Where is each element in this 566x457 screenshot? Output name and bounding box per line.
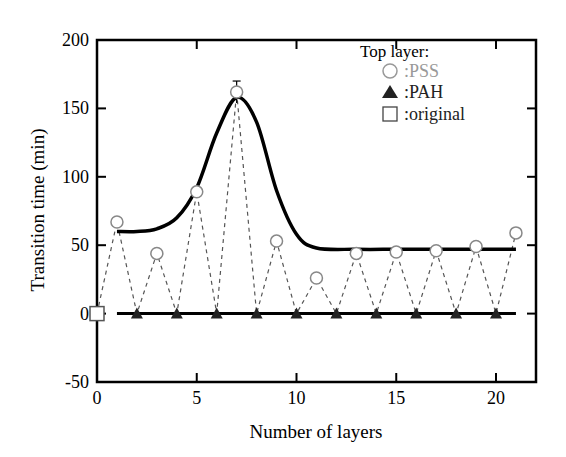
legend: Top layer::PSS:PAH:original bbox=[360, 42, 465, 124]
pss-circle-marker bbox=[111, 216, 123, 228]
x-tick-label: 10 bbox=[288, 388, 306, 408]
plot-area: -5005010015020005101520 bbox=[62, 30, 536, 408]
pss-circle-marker bbox=[350, 247, 362, 259]
legend-title: Top layer: bbox=[360, 42, 429, 61]
chart: -5005010015020005101520 Transition time … bbox=[0, 0, 566, 457]
legend-circle-icon bbox=[383, 64, 397, 78]
pss-circle-marker bbox=[430, 245, 442, 257]
original-square-marker bbox=[90, 307, 104, 321]
pss-circle-marker bbox=[231, 86, 243, 98]
legend-label: :PSS bbox=[404, 61, 439, 81]
x-tick-label: 15 bbox=[387, 388, 405, 408]
y-tick-label: 100 bbox=[62, 167, 89, 187]
legend-square-icon bbox=[383, 107, 397, 121]
legend-label: :PAH bbox=[404, 82, 443, 102]
pss-circle-marker bbox=[390, 246, 402, 258]
y-tick-label: 200 bbox=[62, 30, 89, 50]
x-tick-label: 5 bbox=[192, 388, 201, 408]
x-tick-label: 0 bbox=[93, 388, 102, 408]
x-tick-label: 20 bbox=[487, 388, 505, 408]
pss-circle-marker bbox=[510, 227, 522, 239]
x-axis-label: Number of layers bbox=[250, 421, 383, 442]
pss-circle-marker bbox=[470, 241, 482, 253]
y-axis-label: Transition time (min) bbox=[27, 129, 49, 292]
y-tick-label: 50 bbox=[71, 235, 89, 255]
legend-label: :original bbox=[404, 104, 465, 124]
y-tick-label: -50 bbox=[65, 372, 89, 392]
legend-triangle-icon bbox=[382, 85, 398, 98]
pss-circle-marker bbox=[151, 247, 163, 259]
plot-frame bbox=[97, 40, 536, 382]
pss-circle-marker bbox=[310, 272, 322, 284]
y-tick-label: 0 bbox=[80, 304, 89, 324]
pss-circle-marker bbox=[271, 235, 283, 247]
dashed-connector bbox=[97, 92, 516, 314]
y-tick-label: 150 bbox=[62, 98, 89, 118]
pss-circle-marker bbox=[191, 186, 203, 198]
